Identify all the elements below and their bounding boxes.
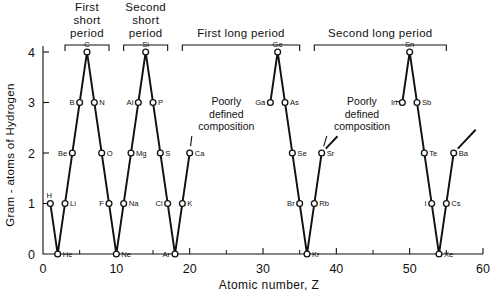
y-axis-title: Gram - atoms of Hydrogen — [4, 83, 16, 226]
annotation-1-line-1: defined — [345, 108, 380, 120]
y-tick-label: 1 — [28, 197, 35, 211]
data-point-Br — [297, 201, 303, 207]
data-point-Rb — [311, 201, 317, 207]
element-label-Sn: Sn — [405, 40, 414, 49]
data-point-Ge — [275, 49, 281, 55]
x-axis-title: Atomic number, Z — [219, 278, 319, 292]
data-point-Mg — [128, 150, 134, 156]
data-point-Kr — [304, 251, 310, 257]
element-label-Rb: Rb — [319, 199, 329, 208]
element-label-F: F — [99, 199, 104, 208]
data-point-Si — [143, 49, 149, 55]
element-label-Na: Na — [129, 199, 139, 208]
element-label-Ga: Ga — [255, 98, 266, 107]
data-point-Na — [121, 201, 127, 207]
period-brackets-layer — [65, 45, 446, 51]
data-point-Sn — [407, 49, 413, 55]
data-point-Xe — [436, 251, 442, 257]
element-labels-layer: HHeLiBeBCNOFNeNaMgAlSiPSClArKCaGaGeAsSeB… — [47, 40, 469, 259]
period-label-2-line-0: First long period — [197, 27, 285, 39]
data-point-B — [77, 100, 83, 106]
period-label-0-line-1: short — [73, 14, 101, 26]
element-label-P: P — [158, 98, 163, 107]
data-point-Sb — [414, 100, 420, 106]
element-label-Sb: Sb — [422, 98, 431, 107]
y-tick-label: 2 — [28, 147, 35, 161]
element-label-Se: Se — [297, 149, 306, 158]
annotation-1-leader-Sr — [324, 136, 327, 146]
element-label-Si: Si — [142, 40, 149, 49]
y-tick-label: 4 — [28, 46, 35, 60]
data-point-Sr — [319, 150, 325, 156]
period-labels-layer: FirstshortperiodSecondshortperiodFirst l… — [70, 1, 432, 39]
element-label-Ca: Ca — [195, 149, 205, 158]
data-point-Li — [62, 201, 68, 207]
data-point-Be — [69, 150, 75, 156]
element-label-K: K — [187, 199, 192, 208]
element-label-S: S — [165, 149, 170, 158]
data-point-Ar — [172, 251, 178, 257]
element-label-Xe: Xe — [444, 250, 453, 259]
element-label-Te: Te — [429, 149, 437, 158]
element-label-Ba: Ba — [459, 149, 469, 158]
series-segment-1 — [270, 52, 321, 254]
element-label-Sr: Sr — [327, 149, 335, 158]
data-point-As — [282, 100, 288, 106]
y-tick-label: 3 — [28, 96, 35, 110]
element-label-Li: Li — [70, 199, 76, 208]
data-series-layer — [50, 52, 475, 254]
data-point-Cs — [443, 201, 449, 207]
element-label-In: In — [391, 98, 397, 107]
annotation-1-line-0: Poorly — [347, 95, 378, 107]
data-point-Cl — [165, 201, 171, 207]
element-label-Al: Al — [127, 98, 134, 107]
data-point-F — [106, 201, 112, 207]
data-point-K — [179, 201, 185, 207]
annotation-0-line-0: Poorly — [211, 95, 242, 107]
period-label-0-line-0: First — [75, 1, 99, 13]
element-label-H: H — [47, 191, 52, 200]
axis-titles-layer: Atomic number, Z Gram - atoms of Hydroge… — [4, 83, 319, 292]
element-label-He: He — [63, 250, 73, 259]
x-tick-label: 40 — [329, 262, 343, 276]
element-label-Mg: Mg — [136, 149, 147, 158]
data-point-Ga — [267, 100, 273, 106]
data-point-Te — [421, 150, 427, 156]
data-point-O — [99, 150, 105, 156]
period-label-0-line-2: period — [70, 27, 104, 39]
element-label-Ge: Ge — [273, 40, 283, 49]
x-tick-label: 20 — [183, 262, 197, 276]
period-label-3-line-0: Second long period — [328, 27, 433, 39]
element-label-Cs: Cs — [451, 199, 460, 208]
x-tick-label: 50 — [403, 262, 417, 276]
element-label-Kr: Kr — [312, 250, 320, 259]
x-tick-label: 30 — [256, 262, 270, 276]
x-tick-label: 0 — [40, 262, 47, 276]
element-label-Ne: Ne — [121, 250, 131, 259]
element-label-I: I — [425, 199, 427, 208]
x-tick-label: 10 — [109, 262, 123, 276]
data-point-He — [55, 251, 61, 257]
data-point-In — [399, 100, 405, 106]
data-point-P — [150, 100, 156, 106]
data-point-Se — [289, 150, 295, 156]
data-point-S — [157, 150, 163, 156]
data-point-Ne — [113, 251, 119, 257]
periodicity-line-chart: FirstshortperiodSecondshortperiodFirst l… — [0, 0, 500, 297]
data-point-Ca — [187, 150, 193, 156]
element-label-Ar: Ar — [162, 250, 170, 259]
annotation-0-line-2: composition — [198, 120, 254, 132]
element-label-As: As — [290, 98, 299, 107]
annotation-0-leader-Ca — [191, 136, 192, 146]
period-label-1-line-1: short — [132, 14, 160, 26]
y-tick-label: 0 — [28, 248, 35, 262]
element-label-Cl: Cl — [155, 199, 162, 208]
data-point-H — [47, 201, 53, 207]
data-point-Al — [135, 100, 141, 106]
element-label-Br: Br — [287, 199, 295, 208]
element-label-O: O — [107, 149, 113, 158]
annotation-0-line-1: defined — [209, 108, 244, 120]
data-point-C — [84, 49, 90, 55]
period-bracket-3 — [314, 45, 446, 51]
tick-labels-layer: 010203040506001234 — [28, 46, 490, 277]
